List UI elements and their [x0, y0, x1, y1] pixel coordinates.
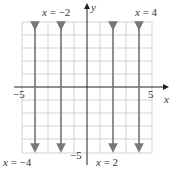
- label-x-neg4: x = −4: [3, 157, 31, 168]
- x-axis-label: x: [164, 94, 169, 105]
- y-min-tick-label: −5: [70, 150, 82, 161]
- x-max-tick-label: 5: [148, 89, 154, 100]
- label-x-neg2: x = −2: [42, 7, 70, 18]
- coordinate-plane: [0, 0, 174, 171]
- label-x-4: x = 4: [135, 7, 157, 18]
- label-x-2: x = 2: [96, 157, 118, 168]
- y-axis-label: y: [91, 2, 96, 13]
- x-min-tick-label: −5: [13, 89, 25, 100]
